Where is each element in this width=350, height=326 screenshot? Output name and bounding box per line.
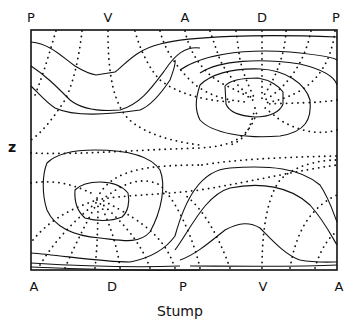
bottom-label-a-right: A: [335, 280, 344, 293]
bottom-label-d: D: [107, 280, 117, 293]
bottom-label-v: V: [259, 280, 268, 293]
x-axis-title: Stump: [157, 303, 203, 319]
bottom-label-p: P: [179, 280, 187, 293]
bottom-label-a-left: A: [30, 280, 39, 293]
contour-diagram: [0, 0, 350, 326]
